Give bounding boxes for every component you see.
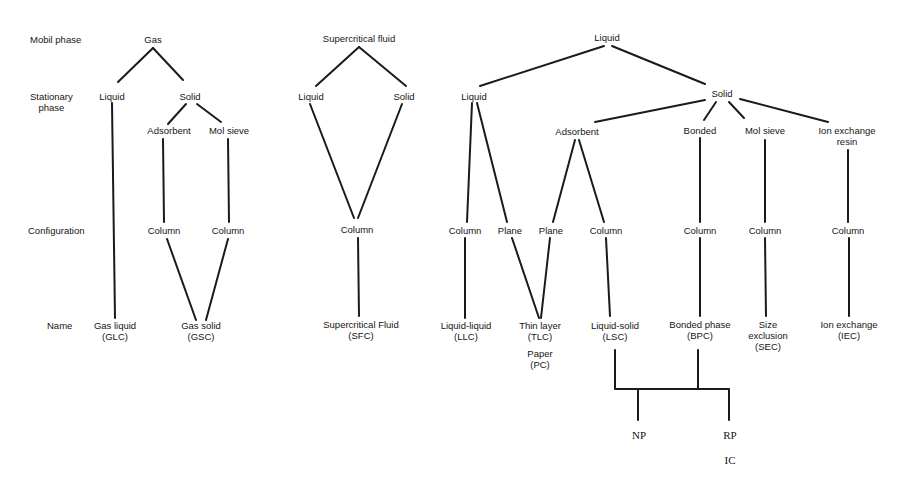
name-sfc: Supercritical Fluid (SFC) [323, 319, 399, 341]
row-label-stationary-line2: phase [30, 102, 73, 113]
liquid-mobile-node: Liquid [594, 32, 619, 43]
name-gsc-line2: (GSC) [181, 331, 221, 342]
liquid-liquid-stationary-node: Liquid [461, 91, 486, 102]
sfc-column-node: Column [341, 224, 374, 235]
name-glc-line2: (GLC) [94, 331, 136, 342]
name-pc-line1: Paper [527, 348, 552, 359]
sfc-mobile-node: Supercritical fluid [323, 33, 395, 44]
gas-liquid-stationary-node: Liquid [99, 91, 124, 102]
gas-mol-sieve-node: Mol sieve [209, 125, 249, 136]
row-label-stationary-phase: Stationary phase [30, 91, 73, 113]
name-llc-line2: (LLC) [441, 331, 492, 342]
ion-exchange-line1: Ion exchange [818, 125, 875, 136]
name-gsc-line1: Gas solid [181, 320, 221, 331]
liquid-mol-sieve-node: Mol sieve [745, 125, 785, 136]
liquid-solid-stationary-node: Solid [711, 88, 732, 99]
liquid-column-lsc: Column [590, 225, 623, 236]
name-llc-line1: Liquid-liquid [441, 320, 492, 331]
connector-lines [0, 0, 906, 484]
name-sec: Size exclusion (SEC) [748, 319, 788, 352]
row-label-name: Name [47, 320, 72, 331]
name-tlc-line1: Thin layer [519, 320, 561, 331]
name-pc: Paper (PC) [527, 348, 552, 370]
name-pc-line2: (PC) [527, 359, 552, 370]
name-tlc: Thin layer (TLC) [519, 320, 561, 342]
name-iec-line2: (IEC) [820, 330, 877, 341]
name-lsc-line2: (LSC) [591, 331, 639, 342]
liquid-plane-2: Plane [539, 225, 563, 236]
name-bpc: Bonded phase (BPC) [669, 319, 730, 341]
name-glc: Gas liquid (GLC) [94, 320, 136, 342]
row-label-configuration: Configuration [28, 225, 85, 236]
liquid-ion-exchange-resin-node: Ion exchange resin [818, 125, 875, 147]
gas-column-node-2: Column [212, 225, 245, 236]
row-label-mobile-phase: Mobil phase [30, 34, 81, 45]
name-llc: Liquid-liquid (LLC) [441, 320, 492, 342]
name-sec-line3: (SEC) [748, 341, 788, 352]
name-lsc: Liquid-solid (LSC) [591, 320, 639, 342]
sfc-solid-stationary-node: Solid [393, 91, 414, 102]
ion-exchange-line2: resin [818, 136, 875, 147]
liquid-column-bpc: Column [684, 225, 717, 236]
gas-mobile-node: Gas [144, 34, 161, 45]
chromatography-classification-diagram: Mobil phase Stationary phase Configurati… [0, 0, 906, 484]
gas-solid-stationary-node: Solid [179, 91, 200, 102]
liquid-plane-1: Plane [498, 225, 522, 236]
row-label-stationary-line1: Stationary [30, 91, 73, 102]
name-sfc-line1: Supercritical Fluid [323, 319, 399, 330]
mode-np: NP [632, 430, 646, 441]
name-tlc-line2: (TLC) [519, 331, 561, 342]
name-glc-line1: Gas liquid [94, 320, 136, 331]
mode-rp: RP [723, 430, 736, 441]
liquid-column-sec: Column [749, 225, 782, 236]
name-sec-line1: Size [748, 319, 788, 330]
name-iec-line1: Ion exchange [820, 319, 877, 330]
name-sec-line2: exclusion [748, 330, 788, 341]
liquid-column-llc: Column [449, 225, 482, 236]
liquid-bonded-node: Bonded [684, 125, 717, 136]
name-sfc-line2: (SFC) [323, 330, 399, 341]
liquid-adsorbent-node: Adsorbent [555, 126, 598, 137]
sfc-liquid-stationary-node: Liquid [298, 91, 323, 102]
gas-column-node-1: Column [148, 225, 181, 236]
name-gsc: Gas solid (GSC) [181, 320, 221, 342]
name-iec: Ion exchange (IEC) [820, 319, 877, 341]
gas-adsorbent-node: Adsorbent [147, 125, 190, 136]
name-bpc-line1: Bonded phase [669, 319, 730, 330]
name-lsc-line1: Liquid-solid [591, 320, 639, 331]
mode-ic: IC [725, 455, 736, 466]
name-bpc-line2: (BPC) [669, 330, 730, 341]
liquid-column-iec: Column [832, 225, 865, 236]
